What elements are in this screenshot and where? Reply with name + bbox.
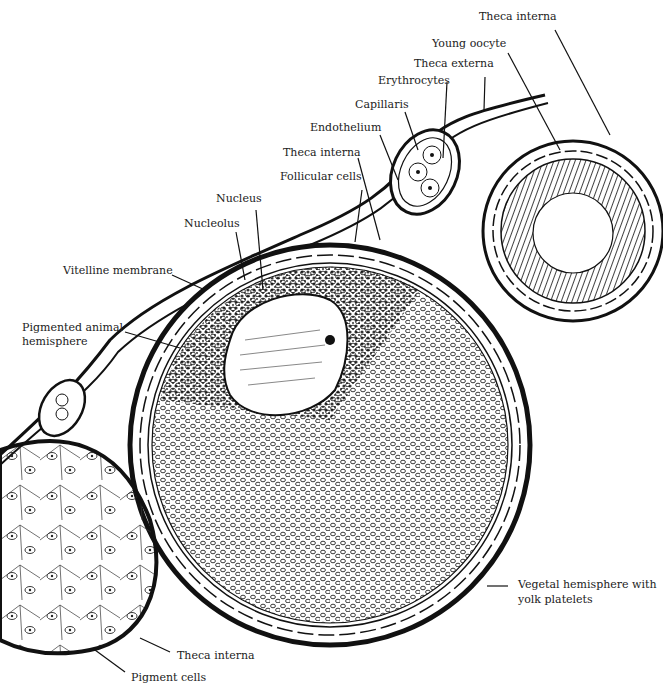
label-vegetal-hemisphere-2: yolk platelets: [518, 593, 593, 606]
label-vegetal-hemisphere: Vegetal hemisphere with: [518, 578, 657, 591]
label-pigmented-animal-hemisphere: Pigmented animal: [22, 321, 123, 334]
label-capillaris: Capillaris: [355, 98, 409, 111]
label-endothelium: Endothelium: [310, 121, 381, 134]
label-follicular-cells: Follicular cells: [280, 170, 362, 183]
capillary-lower: [30, 372, 95, 444]
label-nucleus: Nucleus: [216, 192, 262, 205]
label-pigmented-animal-hemisphere-2: hemisphere: [22, 335, 88, 348]
label-nucleolus: Nucleolus: [184, 217, 240, 230]
label-theca-interna-mid: Theca interna: [283, 146, 361, 159]
label-pigment-cells: Pigment cells: [131, 671, 206, 684]
label-young-oocyte: Young oocyte: [432, 37, 506, 50]
label-theca-externa: Theca externa: [414, 57, 494, 70]
young-oocyte-follicle: [483, 141, 663, 321]
label-erythrocytes: Erythrocytes: [378, 74, 450, 87]
label-theca-interna-top: Theca interna: [479, 10, 557, 23]
main-follicle: [130, 245, 530, 645]
label-vitelline-membrane: Vitelline membrane: [63, 264, 173, 277]
label-theca-interna-bottom: Theca interna: [177, 649, 255, 662]
